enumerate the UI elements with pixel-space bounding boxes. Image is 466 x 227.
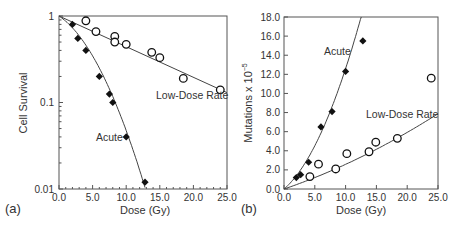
svg-text:0.0: 0.0 bbox=[277, 192, 291, 203]
fit-lines-a bbox=[59, 16, 227, 188]
chart-b-mutations: 0.02.04.06.08.010.012.014.016.018.0 0.05… bbox=[241, 12, 448, 217]
svg-text:2.0: 2.0 bbox=[266, 164, 280, 175]
svg-text:15.0: 15.0 bbox=[367, 192, 387, 203]
x-axis-ticks-b: 0.05.010.015.020.025.0 bbox=[277, 185, 448, 203]
circle-marker bbox=[111, 38, 119, 46]
svg-text:5.0: 5.0 bbox=[308, 192, 322, 203]
diamond-marker bbox=[317, 123, 324, 130]
diamond-marker bbox=[82, 47, 89, 54]
svg-text:6.0: 6.0 bbox=[266, 126, 280, 137]
circle-marker bbox=[122, 41, 130, 49]
svg-text:4.0: 4.0 bbox=[266, 145, 280, 156]
circle-marker bbox=[332, 165, 340, 173]
fit-line-acute-a bbox=[59, 16, 145, 188]
diamond-marker bbox=[109, 99, 116, 106]
svg-text:10.0: 10.0 bbox=[261, 88, 281, 99]
diamond-marker bbox=[74, 35, 81, 42]
circle-marker bbox=[394, 135, 402, 143]
svg-text:20.0: 20.0 bbox=[397, 192, 417, 203]
svg-text:0.1: 0.1 bbox=[40, 97, 54, 108]
svg-text:25.0: 25.0 bbox=[217, 192, 237, 203]
y-axis-label-a: Cell Survival bbox=[17, 72, 29, 133]
annotation-acute-b: Acute bbox=[324, 45, 351, 57]
chart-a-cell-survival: 10.10.01 0.05.010.015.020.025.0 Acute Lo… bbox=[5, 11, 237, 217]
circle-marker bbox=[372, 138, 380, 146]
circle-marker bbox=[365, 148, 373, 156]
svg-text:8.0: 8.0 bbox=[266, 107, 280, 118]
circle-marker bbox=[315, 160, 323, 168]
data-points-a bbox=[69, 17, 224, 186]
svg-text:20.0: 20.0 bbox=[184, 192, 204, 203]
svg-text:25.0: 25.0 bbox=[428, 192, 448, 203]
diamond-marker bbox=[305, 159, 312, 166]
x-axis-label-a: Dose (Gy) bbox=[120, 204, 170, 216]
svg-text:15.0: 15.0 bbox=[150, 192, 170, 203]
circle-marker bbox=[82, 17, 90, 25]
panel-label-a: (a) bbox=[5, 201, 21, 216]
svg-text:18.0: 18.0 bbox=[261, 12, 281, 23]
svg-text:1: 1 bbox=[48, 11, 54, 22]
circle-marker bbox=[427, 74, 435, 82]
diamond-marker bbox=[342, 68, 349, 75]
svg-text:16.0: 16.0 bbox=[261, 31, 281, 42]
svg-text:0.0: 0.0 bbox=[52, 192, 66, 203]
circle-marker bbox=[156, 54, 164, 62]
y-axis-label-b: Mutations x 10−5 bbox=[241, 63, 254, 143]
svg-text:10.0: 10.0 bbox=[336, 192, 356, 203]
panel-label-b: (b) bbox=[241, 201, 257, 216]
fit-line-ldr-a bbox=[59, 16, 227, 93]
annotation-ldr-a: Low-Dose Rate bbox=[156, 89, 229, 101]
circle-marker bbox=[148, 49, 156, 57]
circle-marker bbox=[306, 173, 314, 181]
circle-marker bbox=[343, 150, 351, 158]
circle-marker bbox=[180, 75, 188, 83]
svg-text:14.0: 14.0 bbox=[261, 50, 281, 61]
annotation-ldr-b: Low-Dose Rate bbox=[366, 108, 439, 120]
diamond-marker bbox=[69, 21, 76, 28]
diamond-marker bbox=[106, 91, 113, 98]
x-axis-label-b: Dose (Gy) bbox=[336, 204, 386, 216]
annotation-acute-a: Acute bbox=[96, 131, 123, 143]
svg-text:12.0: 12.0 bbox=[261, 69, 281, 80]
figure: 10.10.01 0.05.010.015.020.025.0 Acute Lo… bbox=[0, 0, 466, 227]
circle-marker bbox=[92, 28, 100, 36]
svg-text:10.0: 10.0 bbox=[116, 192, 136, 203]
svg-text:5.0: 5.0 bbox=[86, 192, 100, 203]
diamond-marker bbox=[123, 133, 130, 140]
diamond-marker bbox=[359, 37, 366, 44]
